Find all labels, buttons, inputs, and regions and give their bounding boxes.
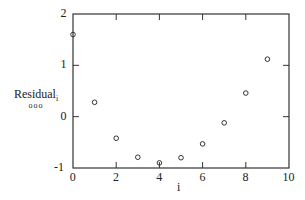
data-point [92, 100, 97, 105]
data-points [71, 32, 270, 165]
y-tick-label: 1 [61, 57, 67, 72]
axis-ticks [73, 14, 289, 168]
y-axis-label-text: Residual [14, 87, 56, 101]
x-tick-label: 4 [156, 170, 162, 185]
y-tick-label: 2 [61, 6, 67, 21]
data-point [222, 121, 227, 126]
x-tick-label: 8 [243, 170, 249, 185]
plot-frame [73, 14, 289, 168]
y-tick-label: 0 [61, 109, 67, 124]
y-axis-label-subscript: i [56, 94, 58, 103]
x-axis-label: i [177, 180, 180, 195]
x-tick-label: 6 [199, 170, 205, 185]
data-point [265, 57, 270, 62]
x-tick-label: 10 [283, 170, 295, 185]
y-axis-label: Residuali ooo [6, 87, 66, 110]
y-tick-label: -1 [54, 160, 64, 175]
data-point [136, 155, 141, 160]
data-point [200, 142, 205, 147]
data-point [244, 91, 249, 96]
data-point [179, 155, 184, 160]
data-point [114, 136, 119, 141]
x-tick-label: 0 [70, 170, 76, 185]
x-tick-label: 2 [113, 170, 119, 185]
